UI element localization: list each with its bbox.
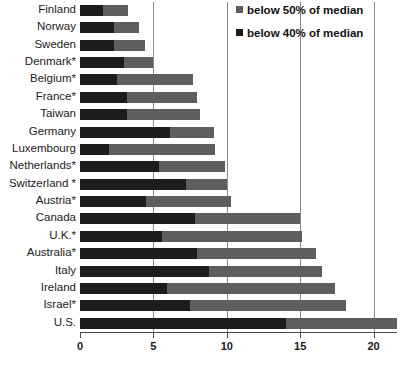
bar-segment-below-50 [209, 266, 322, 277]
chart-row: France* [0, 89, 402, 106]
x-tick-5 [153, 333, 154, 338]
chart-row: Belgium* [0, 71, 402, 88]
bar-segment-below-40 [80, 213, 195, 224]
bar-segment-below-50 [197, 248, 316, 259]
bar-segment-below-50 [117, 74, 193, 85]
category-label-us: U.S. [0, 316, 76, 328]
bar-segment-below-40 [80, 248, 197, 259]
stacked-bar [80, 266, 322, 277]
bar-segment-below-50 [124, 57, 153, 68]
chart-row: Netherlands* [0, 158, 402, 175]
chart-row: Israel* [0, 297, 402, 314]
category-label-denmark: Denmark* [0, 55, 76, 67]
category-label-netherlands: Netherlands* [0, 159, 76, 171]
stacked-bar [80, 300, 346, 311]
bar-segment-below-40 [80, 266, 209, 277]
category-label-australia: Australia* [0, 246, 76, 258]
chart-row: Switzerland * [0, 176, 402, 193]
category-label-norway: Norway [0, 20, 76, 32]
category-label-taiwan: Taiwan [0, 107, 76, 119]
bar-segment-below-50 [103, 5, 128, 16]
chart-row: Australia* [0, 245, 402, 262]
bar-segment-below-50 [127, 109, 200, 120]
stacked-bar [80, 5, 128, 16]
bar-segment-below-50 [114, 22, 139, 33]
stacked-bar [80, 318, 397, 329]
stacked-bar [80, 74, 193, 85]
x-tick-label-10: 10 [207, 340, 247, 352]
bar-segment-below-50 [114, 40, 145, 51]
chart-row: Finland [0, 2, 402, 19]
x-tick-label-5: 5 [133, 340, 173, 352]
category-label-austria: Austria* [0, 194, 76, 206]
category-label-uk: U.K.* [0, 229, 76, 241]
x-axis-line [80, 332, 397, 333]
bar-segment-below-40 [80, 127, 170, 138]
chart-row: U.S. [0, 315, 402, 332]
chart-row: Germany [0, 124, 402, 141]
x-tick-label-15: 15 [280, 340, 320, 352]
x-tick-label-0: 0 [60, 340, 100, 352]
category-label-finland: Finland [0, 3, 76, 15]
stacked-bar [80, 196, 231, 207]
bar-segment-below-40 [80, 196, 146, 207]
x-tick-10 [227, 333, 228, 338]
bar-segment-below-50 [162, 231, 301, 242]
bar-segment-below-40 [80, 161, 159, 172]
chart-row: Sweden [0, 37, 402, 54]
stacked-bar [80, 248, 316, 259]
chart-row: Italy [0, 263, 402, 280]
bar-segment-below-40 [80, 109, 127, 120]
chart-row: Luxembourg [0, 141, 402, 158]
bar-segment-below-50 [146, 196, 231, 207]
stacked-bar [80, 40, 145, 51]
bar-segment-below-40 [80, 74, 117, 85]
category-label-switzerland: Switzerland * [0, 177, 76, 189]
category-label-belgium: Belgium* [0, 72, 76, 84]
bar-segment-below-50 [195, 213, 301, 224]
chart-row: Ireland [0, 280, 402, 297]
bar-segment-below-50 [170, 127, 214, 138]
category-label-italy: Italy [0, 264, 76, 276]
chart-row: Denmark* [0, 54, 402, 71]
category-label-luxembourg: Luxembourg [0, 142, 76, 154]
bar-segment-below-40 [80, 179, 186, 190]
bar-segment-below-50 [127, 92, 197, 103]
bar-segment-below-40 [80, 318, 286, 329]
stacked-bar [80, 283, 335, 294]
stacked-bar [80, 127, 214, 138]
bar-segment-below-40 [80, 144, 109, 155]
bar-segment-below-50 [167, 283, 336, 294]
bar-segment-below-40 [80, 231, 162, 242]
x-tick-label-20: 20 [354, 340, 394, 352]
bar-segment-below-50 [190, 300, 346, 311]
bar-segment-below-50 [159, 161, 225, 172]
chart-row: Taiwan [0, 106, 402, 123]
stacked-bar [80, 22, 139, 33]
chart-row: Austria* [0, 193, 402, 210]
bar-segment-below-50 [186, 179, 227, 190]
bar-segment-below-40 [80, 5, 103, 16]
stacked-bar [80, 109, 200, 120]
category-label-germany: Germany [0, 125, 76, 137]
bar-segment-below-40 [80, 300, 190, 311]
stacked-bar [80, 57, 153, 68]
category-label-israel: Israel* [0, 298, 76, 310]
category-label-canada: Canada [0, 211, 76, 223]
stacked-bar [80, 161, 225, 172]
chart-row: Norway [0, 19, 402, 36]
chart-row: Canada [0, 210, 402, 227]
poverty-rate-bar-chart: below 50% of medianbelow 40% of median 0… [0, 0, 402, 368]
chart-row: U.K.* [0, 228, 402, 245]
bar-segment-below-40 [80, 283, 167, 294]
bar-segment-below-40 [80, 40, 114, 51]
bar-segment-below-50 [286, 318, 398, 329]
bar-segment-below-50 [109, 144, 215, 155]
x-tick-0 [80, 333, 81, 338]
bar-segment-below-40 [80, 92, 127, 103]
category-label-sweden: Sweden [0, 38, 76, 50]
category-label-france: France* [0, 90, 76, 102]
stacked-bar [80, 231, 302, 242]
bar-segment-below-40 [80, 57, 124, 68]
bar-segment-below-40 [80, 22, 114, 33]
